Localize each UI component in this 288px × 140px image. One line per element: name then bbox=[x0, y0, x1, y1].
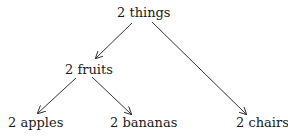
edge-fruits-apples bbox=[38, 78, 76, 113]
edge-things-chairs bbox=[152, 22, 246, 114]
node-things: 2 things bbox=[117, 5, 171, 21]
tree-diagram: 2 things 2 fruits 2 apples 2 bananas 2 c… bbox=[0, 0, 288, 140]
node-bananas: 2 bananas bbox=[110, 115, 177, 131]
edge-things-fruits bbox=[96, 23, 132, 58]
node-apples: 2 apples bbox=[8, 115, 63, 131]
node-fruits: 2 fruits bbox=[65, 62, 113, 78]
node-chairs: 2 chairs bbox=[236, 115, 288, 131]
edge-fruits-bananas bbox=[92, 77, 131, 114]
